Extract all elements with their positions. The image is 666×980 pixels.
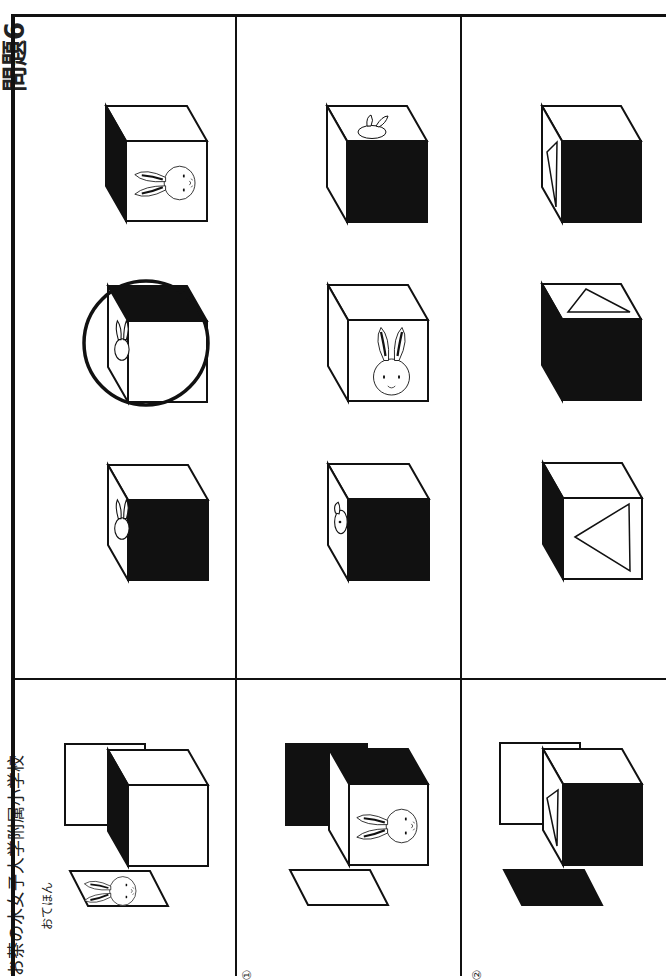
- example-option-1-cube[interactable]: [106, 106, 207, 221]
- q1-option-2-cube[interactable]: [328, 285, 428, 401]
- example-exploded-figure: [65, 744, 208, 906]
- q2-option-1-cube[interactable]: [542, 106, 641, 222]
- q1-option-3-cube[interactable]: [328, 464, 429, 580]
- q1-exploded-figure: [286, 744, 428, 905]
- q1-option-1-cube[interactable]: [327, 106, 427, 222]
- q2-exploded-figure: [500, 743, 642, 905]
- q2-option-3-cube[interactable]: [543, 463, 642, 579]
- q2-option-2-cube[interactable]: [542, 284, 641, 400]
- example-option-3-cube[interactable]: [108, 465, 208, 580]
